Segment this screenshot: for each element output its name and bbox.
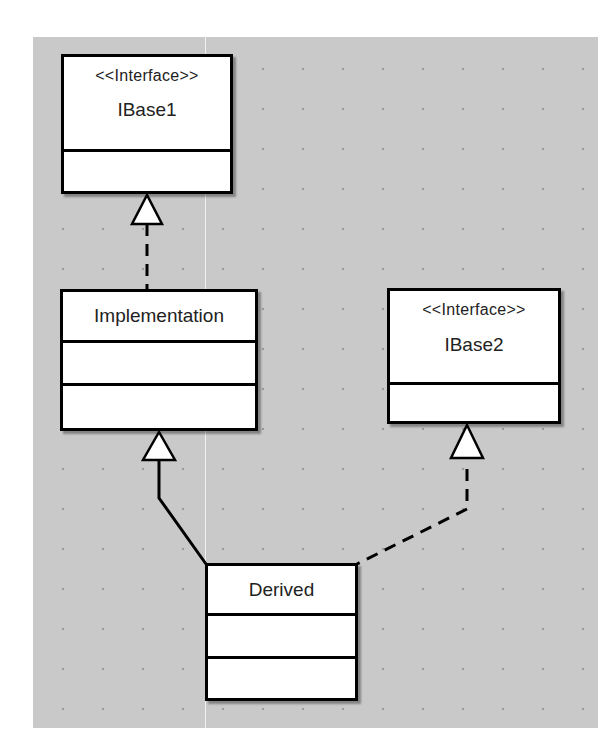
attributes-section [64, 149, 230, 191]
class-box-ibase1[interactable]: <<Interface>> IBase1 [61, 54, 233, 194]
attributes-section [63, 340, 255, 383]
attributes-section [390, 382, 558, 421]
stereotype-label: <<Interface>> [64, 67, 230, 85]
realization-implementation-ibase1[interactable] [132, 195, 162, 290]
class-box-implementation[interactable]: Implementation [60, 289, 258, 431]
realization-derived-ibase2[interactable] [357, 425, 483, 564]
class-header: Derived [208, 566, 355, 613]
class-name: Derived [249, 579, 314, 600]
hollow-triangle-arrow-icon [451, 425, 483, 458]
class-name: IBase2 [390, 334, 558, 356]
attributes-section [208, 613, 355, 656]
generalization-derived-implementation[interactable] [143, 432, 206, 564]
class-box-ibase2[interactable]: <<Interface>> IBase2 [387, 288, 561, 424]
hollow-triangle-arrow-icon [132, 195, 162, 224]
class-box-derived[interactable]: Derived [205, 563, 358, 701]
operations-section [63, 383, 255, 428]
operations-section [208, 656, 355, 698]
class-name: IBase1 [64, 99, 230, 121]
class-header: Implementation [63, 292, 255, 340]
stereotype-label: <<Interface>> [390, 301, 558, 319]
hollow-triangle-arrow-icon [143, 432, 175, 460]
class-header: <<Interface>> IBase1 [64, 57, 230, 149]
class-header: <<Interface>> IBase2 [390, 291, 558, 382]
class-name: Implementation [94, 305, 224, 326]
